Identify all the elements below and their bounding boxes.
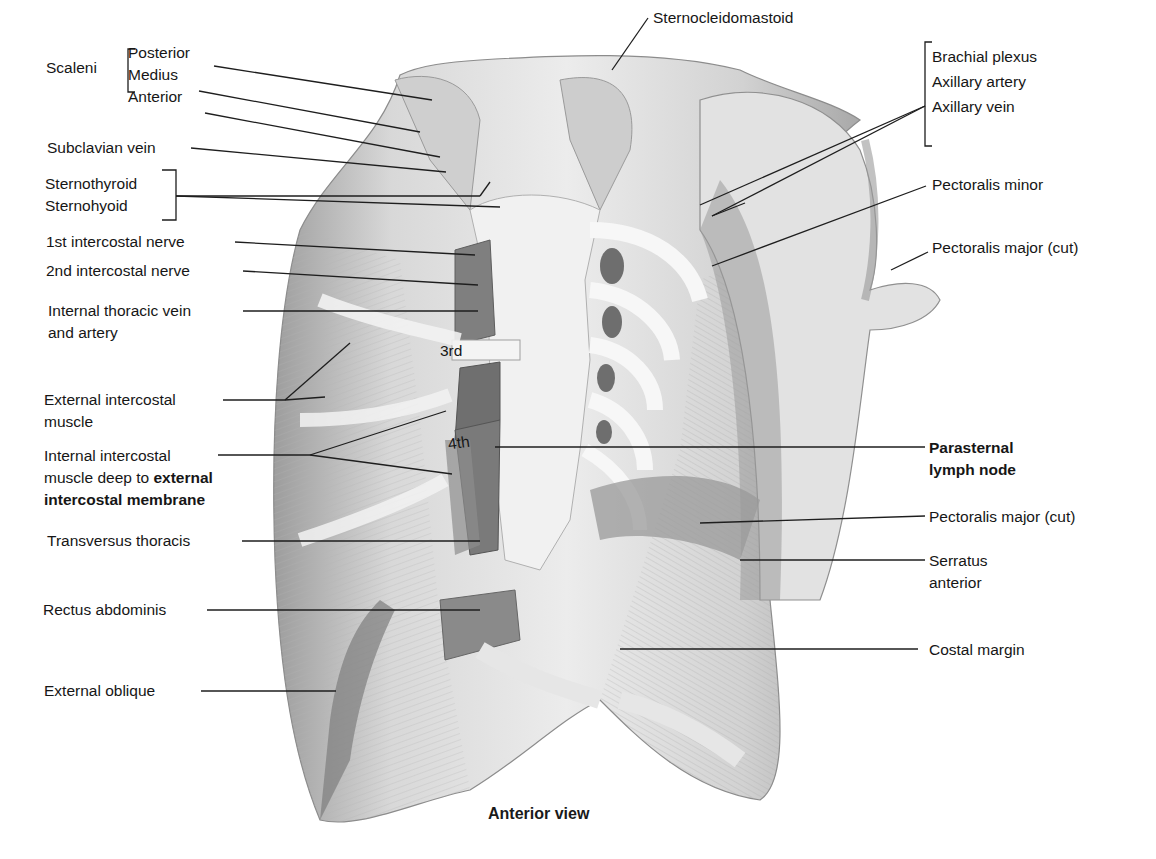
- label-sternocleidomastoid: Sternocleidomastoid: [653, 8, 793, 27]
- label-internal-intercostal-1: Internal intercostal: [44, 446, 171, 465]
- label-internal-thoracic-1: Internal thoracic vein: [48, 301, 191, 320]
- label-pectoralis-major-cut-upper: Pectoralis major (cut): [932, 238, 1078, 257]
- label-internal-intercostal-2: muscle deep to external: [44, 468, 213, 487]
- label-internal-intercostal-3: intercostal membrane: [44, 490, 205, 509]
- figure-caption: Anterior view: [488, 805, 589, 823]
- label-1st-intercostal-nerve: 1st intercostal nerve: [46, 232, 185, 251]
- label-parasternal-1: Parasternal: [929, 438, 1013, 457]
- label-external-oblique: External oblique: [44, 681, 155, 700]
- label-scaleni-medius: Medius: [128, 65, 178, 84]
- label-parasternal-2: lymph node: [929, 460, 1016, 479]
- label-internal-intercostal-2b: external: [153, 469, 212, 486]
- label-external-intercostal-2: muscle: [44, 412, 93, 431]
- label-axillary-artery: Axillary artery: [932, 72, 1026, 91]
- label-scaleni-posterior: Posterior: [128, 43, 190, 62]
- label-pectoralis-minor: Pectoralis minor: [932, 175, 1043, 194]
- label-2nd-intercostal-nerve: 2nd intercostal nerve: [46, 261, 190, 280]
- thorax-illustration: [0, 0, 1156, 859]
- label-rectus-abdominis: Rectus abdominis: [43, 600, 166, 619]
- thorax-anatomy-figure: Scaleni Posterior Medius Anterior Subcla…: [0, 0, 1156, 859]
- label-costal-margin: Costal margin: [929, 640, 1025, 659]
- label-brachial-plexus: Brachial plexus: [932, 47, 1037, 66]
- label-internal-thoracic-2: and artery: [48, 323, 118, 342]
- label-serratus-2: anterior: [929, 573, 982, 592]
- label-scaleni: Scaleni: [46, 58, 97, 77]
- label-serratus-1: Serratus: [929, 551, 988, 570]
- label-internal-intercostal-2a: muscle deep to: [44, 469, 153, 486]
- label-sternohyoid: Sternohyoid: [45, 196, 128, 215]
- label-scaleni-anterior: Anterior: [128, 87, 182, 106]
- label-transversus-thoracis: Transversus thoracis: [47, 531, 190, 550]
- label-pectoralis-major-cut-lower: Pectoralis major (cut): [929, 507, 1075, 526]
- label-external-intercostal-1: External intercostal: [44, 390, 176, 409]
- label-rib-3: 3rd: [440, 341, 462, 360]
- label-axillary-vein: Axillary vein: [932, 97, 1015, 116]
- label-subclavian-vein: Subclavian vein: [47, 138, 156, 157]
- label-rib-4: 4th: [447, 432, 471, 454]
- label-sternothyroid: Sternothyroid: [45, 174, 137, 193]
